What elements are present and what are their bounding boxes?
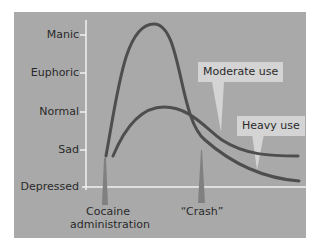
callout-heavy-use: Heavy use bbox=[237, 116, 305, 136]
cocaine-marker bbox=[102, 158, 108, 205]
y-label-manic: Manic bbox=[47, 29, 79, 41]
y-label-euphoric: Euphoric bbox=[31, 67, 79, 79]
y-ticks bbox=[80, 35, 86, 150]
y-label-depressed: Depressed bbox=[21, 181, 79, 193]
x-label-cocaine-line1: Cocaine bbox=[70, 205, 146, 218]
x-label-cocaine-line2: administration bbox=[70, 218, 146, 231]
heavy-use-curve bbox=[106, 24, 299, 181]
y-label-sad: Sad bbox=[58, 144, 79, 156]
y-label-normal: Normal bbox=[39, 106, 79, 118]
x-label-cocaine: Cocaine administration bbox=[70, 205, 146, 231]
x-label-crash: “Crash” bbox=[176, 205, 228, 218]
crash-marker bbox=[198, 150, 205, 203]
callout-moderate-use: Moderate use bbox=[198, 62, 283, 82]
moderate-pointer bbox=[212, 82, 224, 132]
